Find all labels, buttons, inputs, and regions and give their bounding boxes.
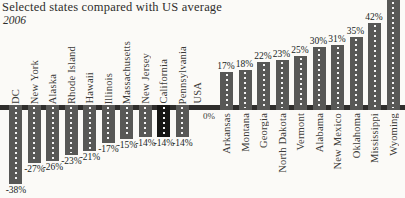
state-label-illinois: Illinois — [103, 73, 115, 104]
bar-montana — [239, 70, 252, 110]
state-label-hawaii: Hawaii — [84, 72, 96, 104]
state-label-pennsylvania: Pennsylvania — [177, 46, 189, 104]
state-label-massachusetts: Massachusetts — [121, 41, 133, 104]
value-label-oklahoma: 35% — [341, 26, 371, 36]
bar-new-york — [28, 105, 41, 163]
bar-mississippi — [368, 23, 381, 110]
state-label-new-york: New York — [29, 60, 41, 104]
bar-new-mexico — [331, 45, 344, 110]
bar-new-jersey — [139, 105, 152, 137]
bar-arkansas — [220, 72, 233, 110]
state-label-georgia: Georgia — [258, 113, 270, 148]
bar-illinois — [102, 105, 115, 143]
state-label-oklahoma: Oklahoma — [351, 113, 363, 158]
state-label-california: California — [158, 59, 170, 104]
state-label-north-dakota: North Dakota — [277, 113, 289, 173]
bar-vermont — [294, 56, 307, 110]
chart-subtitle: 2006 — [3, 14, 26, 26]
axis-label-zero: 0% — [203, 111, 215, 121]
value-label-pennsylvania: -14% — [168, 138, 198, 148]
bar-massachusetts — [120, 105, 133, 139]
value-label-mississippi: 42% — [359, 12, 389, 22]
state-label-mississippi: Mississippi — [369, 113, 381, 163]
bar-rhode-island — [65, 105, 78, 155]
state-label-arkansas: Arkansas — [221, 113, 233, 154]
axis-label-usa: USA — [192, 82, 204, 104]
value-label-vermont: 25% — [285, 45, 315, 55]
state-label-new-jersey: New Jersey — [140, 53, 152, 104]
bar-wyoming — [387, 0, 400, 110]
bar-georgia — [257, 62, 270, 110]
state-label-dc: DC — [10, 89, 22, 104]
state-label-new-mexico: New Mexico — [332, 113, 344, 170]
bar-north-dakota — [276, 60, 289, 110]
chart-title: Selected states compared with US average — [2, 0, 222, 15]
bar-alabama — [313, 47, 326, 110]
value-label-dc: -38% — [1, 185, 31, 195]
state-label-rhode-island: Rhode Island — [66, 46, 78, 104]
state-label-vermont: Vermont — [295, 113, 307, 151]
bar-california — [157, 105, 170, 137]
bar-oklahoma — [350, 37, 363, 110]
bar-alaska — [46, 105, 59, 161]
state-label-montana: Montana — [240, 113, 252, 152]
bar-pennsylvania — [176, 105, 189, 137]
state-label-alaska: Alaska — [47, 74, 59, 104]
state-label-alabama: Alabama — [314, 113, 326, 152]
bar-chart: Selected states compared with US average… — [0, 0, 405, 198]
state-label-wyoming: Wyoming — [388, 113, 400, 156]
axis-baseline — [0, 105, 405, 110]
